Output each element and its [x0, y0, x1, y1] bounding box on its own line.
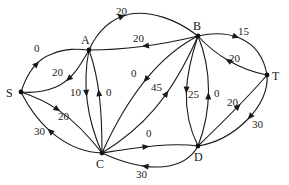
- edge-capacity-label: 10: [70, 86, 82, 98]
- node-s-label: S: [6, 86, 13, 100]
- edge-capacity-label: 30: [136, 168, 148, 180]
- node-d-dot: [196, 144, 201, 149]
- node-s-dot: [19, 90, 24, 95]
- edge-capacity-label: 15: [238, 25, 250, 37]
- node-b-dot: [196, 34, 201, 39]
- arrowhead-icon: [205, 92, 211, 99]
- arrowhead-icon: [142, 143, 150, 150]
- arrowhead-icon: [96, 89, 103, 97]
- edge-c-d: [102, 145, 198, 153]
- edge-capacity-label: 20: [229, 52, 241, 64]
- flow-network-diagram: 0202020100203004503025015202030 SABTCD: [0, 0, 289, 185]
- edge-labels-group: 0202020100203004503025015202030: [34, 5, 264, 180]
- edge-capacity-label: 0: [106, 86, 112, 98]
- arrowhead-icon: [162, 89, 171, 98]
- edge-capacity-label: 20: [133, 32, 145, 44]
- node-a-dot: [87, 48, 92, 53]
- edge-capacity-label: 0: [34, 42, 40, 54]
- edge-capacity-label: 20: [227, 96, 239, 108]
- edge-s-c: [21, 92, 102, 153]
- edge-d-b: [198, 36, 209, 146]
- node-b-label: B: [193, 19, 201, 33]
- node-c-dot: [100, 151, 105, 156]
- node-t-label: T: [272, 69, 280, 83]
- edge-capacity-label: 25: [188, 88, 200, 100]
- node-t-dot: [265, 73, 270, 78]
- edge-capacity-label: 0: [146, 127, 152, 139]
- edge-capacity-label: 45: [151, 81, 163, 93]
- edge-capacity-label: 20: [116, 5, 128, 17]
- edge-capacity-label: 30: [252, 118, 264, 130]
- edge-d-c: [102, 146, 198, 167]
- edge-capacity-label: 0: [214, 87, 220, 99]
- edge-capacity-label: 0: [131, 67, 137, 79]
- node-c-label: C: [96, 157, 104, 171]
- edge-capacity-label: 20: [52, 66, 64, 78]
- edges-group: [21, 13, 267, 167]
- edge-capacity-label: 30: [34, 125, 46, 137]
- node-a-label: A: [81, 33, 90, 47]
- edge-capacity-label: 20: [58, 110, 70, 122]
- edge-c-s: [21, 92, 102, 153]
- node-d-label: D: [194, 150, 203, 164]
- arrowhead-icon: [83, 90, 90, 97]
